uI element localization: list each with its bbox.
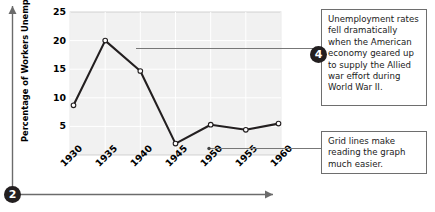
x-tick-1930: 1930 (58, 143, 84, 169)
x-tick-1940: 1940 (128, 143, 154, 169)
x-tick-1935: 1935 (93, 143, 119, 169)
callout-1-line-3: when the American (328, 37, 421, 48)
x-tick-1945: 1945 (163, 143, 189, 169)
callout-1-line-4: economy geared up (328, 48, 421, 59)
x-tick-1950: 1950 (198, 143, 224, 169)
x-tick-1960: 1960 (268, 143, 294, 169)
callout-badge-2: 2 (4, 186, 21, 203)
callout-1-line-1: Unemployment rates (328, 14, 421, 25)
x-tick-1955: 1955 (233, 143, 259, 169)
callout-2-line-2: reading the graph (328, 147, 421, 158)
callout-2-line-1: Grid lines make (328, 136, 421, 147)
callout-1-line-7: World War II. (328, 82, 421, 93)
x-axis-tick-labels: 1930 1935 1940 1945 1950 1955 1960 (0, 0, 300, 212)
callout-badge-4: 4 (310, 46, 327, 63)
unemployment-line-chart-figure: Percentage of Workers Unemployed (0, 0, 435, 212)
chart-plot-region: Percentage of Workers Unemployed (0, 0, 300, 212)
callout-1-line-5: to supply the Allied (328, 60, 421, 71)
callout-box-unemployment-note: Unemployment rates fell dramatically whe… (321, 9, 427, 106)
callout-1-line-2: fell dramatically (328, 25, 421, 36)
callout-2-line-3: much easier. (328, 159, 421, 170)
callout-1-line-6: war effort during (328, 71, 421, 82)
callout-box-gridlines-note: Grid lines make reading the graph much e… (321, 131, 427, 174)
